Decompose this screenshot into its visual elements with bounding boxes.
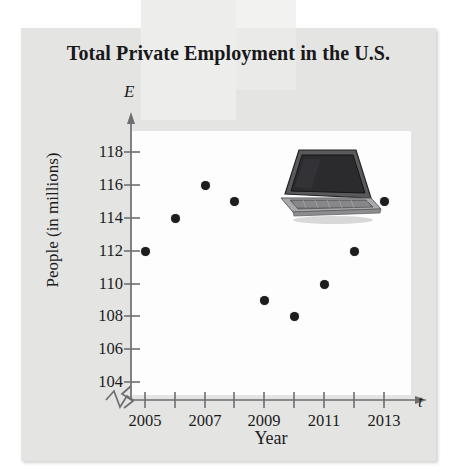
- data-point: [290, 312, 299, 321]
- x-tick-labels: 2005 2007 2009 2011 2013: [21, 28, 436, 461]
- data-point: [171, 214, 180, 223]
- data-point: [141, 247, 150, 256]
- y-axis-title: People (in millions): [43, 125, 63, 315]
- data-point: [201, 181, 210, 190]
- data-point: [350, 247, 359, 256]
- data-point: [260, 296, 269, 305]
- data-point: [230, 197, 239, 206]
- laptop-icon: [273, 146, 383, 231]
- x-axis-title: Year: [131, 428, 411, 449]
- chart-figure: Total Private Employment in the U.S.: [21, 28, 436, 461]
- data-point: [320, 280, 329, 289]
